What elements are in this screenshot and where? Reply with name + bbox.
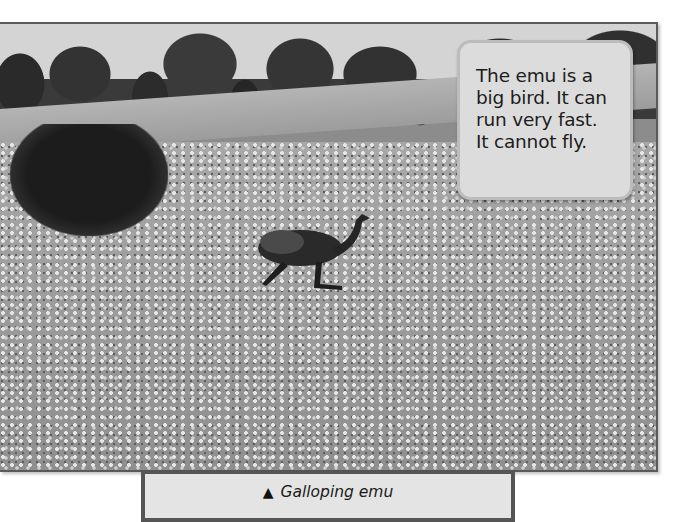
info-card: The emu is a big bird. It can run very f…	[457, 40, 633, 200]
info-text: The emu is a big bird. It can run very f…	[476, 65, 620, 153]
emu-figure	[252, 206, 374, 298]
bush	[10, 124, 168, 236]
triangle-up-icon: ▲	[263, 482, 274, 502]
photo-caption: ▲ Galloping emu	[141, 470, 515, 522]
info-line: run very fast.	[476, 109, 620, 131]
caption-text: Galloping emu	[280, 482, 393, 502]
info-line: It cannot fly.	[476, 131, 620, 153]
info-line: The emu is a	[476, 65, 620, 87]
info-line: big bird. It can	[476, 87, 620, 109]
